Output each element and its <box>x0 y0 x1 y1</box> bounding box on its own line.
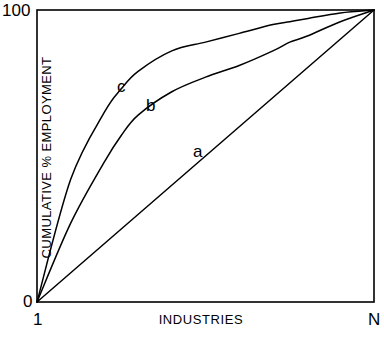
x-axis-title: INDUSTRIES <box>0 312 384 327</box>
x-axis-title-text: INDUSTRIES <box>159 312 244 327</box>
y-axis-title: CUMULATIVE % EMPLOYMENT <box>39 12 54 304</box>
lorenz-curve-chart: 100 0 1 N INDUSTRIES CUMULATIVE % EMPLOY… <box>0 0 384 338</box>
plot-area <box>0 0 384 338</box>
series-line-a <box>37 10 374 302</box>
curve-label-c: c <box>117 78 126 95</box>
y-axis-max-tick-label: 100 <box>2 2 30 19</box>
y-axis-min-tick-label: 0 <box>23 293 32 310</box>
curve-label-b: b <box>146 97 155 114</box>
curve-label-a: a <box>193 143 202 160</box>
